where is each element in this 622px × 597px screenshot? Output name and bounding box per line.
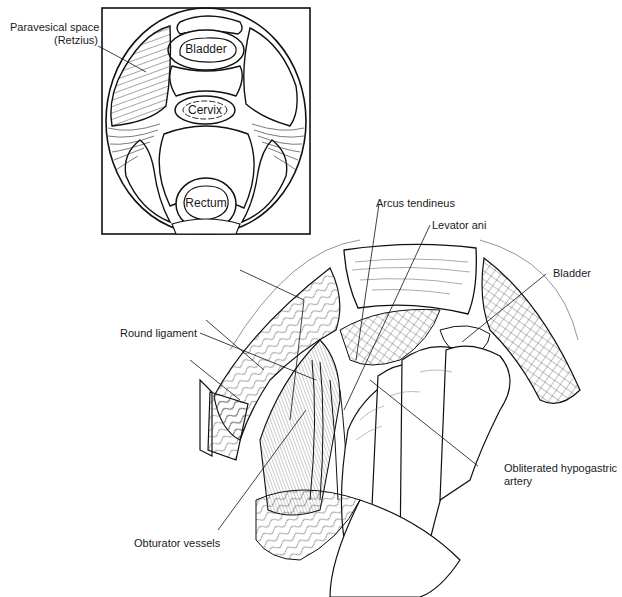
obturator-vessels-label: Obturator vessels (134, 537, 220, 550)
surgeon-hand (330, 346, 510, 597)
paravesical-label-line2: (Retzius) (10, 34, 98, 47)
bladder-label: Bladder (553, 267, 591, 280)
hypogastric-label-line1: Obliterated hypogastric (504, 462, 617, 475)
figure: Paravesical space (Retzius) Bladder Cerv… (0, 0, 622, 597)
hypogastric-label-line2: artery (504, 475, 617, 488)
inset-rectum-label: Rectum (184, 196, 228, 210)
arcus-tendineus-label: Arcus tendineus (376, 197, 455, 210)
inset-cervix-label: Cervix (185, 103, 225, 117)
levator-ani-label: Levator ani (432, 219, 486, 232)
inset-bladder-label: Bladder (184, 42, 228, 56)
round-ligament-label: Round ligament (120, 327, 197, 340)
surgical-view (190, 204, 580, 597)
paravesical-space-label: Paravesical space (Retzius) (10, 21, 98, 47)
paravesical-label-line1: Paravesical space (10, 21, 98, 34)
illustration-canvas (0, 0, 622, 597)
obliterated-hypogastric-artery-label: Obliterated hypogastric artery (504, 462, 617, 488)
